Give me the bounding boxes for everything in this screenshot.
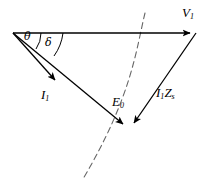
label-terminal-voltage: V1 [182, 6, 194, 19]
label-power-factor-angle: θ [24, 31, 31, 42]
theta-angle-arc [36, 33, 41, 49]
vector-e0 [13, 33, 123, 124]
phasor-diagram-canvas [0, 0, 215, 190]
label-load-angle: δ [45, 37, 52, 48]
label-impedance-drop: I1Zs [156, 86, 175, 99]
label-excitation-emf: E0 [112, 95, 124, 108]
delta-angle-arc [54, 33, 63, 56]
phasor-diagram: V1 I1 E0 I1Zs θ δ [0, 0, 215, 190]
label-armature-current: I1 [41, 88, 49, 101]
vector-i1zs [134, 33, 196, 123]
